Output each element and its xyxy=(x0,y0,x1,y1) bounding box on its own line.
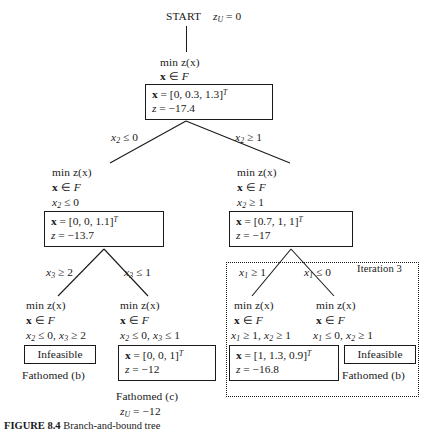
leaf2-objective: min z(x) xyxy=(120,299,160,311)
leaf4-result-box: Infeasible xyxy=(344,345,416,364)
leaf3-objective: min z(x) xyxy=(234,299,274,311)
leaf2-solution-box: x = [0, 0, 1]T z = −12 xyxy=(118,345,216,381)
leaf1-objective: min z(x) xyxy=(26,299,66,311)
leaf1-result-box: Infeasible xyxy=(24,345,96,364)
leaf2-membership: x ∈ F xyxy=(120,314,149,326)
leaf4-result: Infeasible xyxy=(358,347,403,361)
leaf1-membership: x ∈ F xyxy=(26,314,55,326)
leaf3-solution-z: z = −16.8 xyxy=(236,362,332,376)
branch-label-x1-le0: x1 ≤ 0 xyxy=(304,266,331,281)
leaf3-solution-box: x = [1, 1.3, 0.9]T z = −16.8 xyxy=(229,345,339,381)
leaf3-membership: x ∈ F xyxy=(234,314,263,326)
leaf4-objective: min z(x) xyxy=(316,299,356,311)
leaf2-constraints: x2 ≤ 0, x3 ≤ 1 xyxy=(120,329,180,344)
leaf3-solution-x: x = [1, 1.3, 0.9]T xyxy=(236,348,332,362)
branch-label-x3-ge2: x3 ≥ 2 xyxy=(46,266,73,281)
figure-caption: FIGURE 8.4 Branch-and-bound tree xyxy=(4,420,160,432)
leaf4-fathomed: Fathomed (b) xyxy=(342,369,405,381)
leaf1-result: Infeasible xyxy=(38,347,83,361)
leaf3-constraints: x1 ≥ 1, x2 ≥ 1 xyxy=(231,329,291,344)
leaf1-fathomed: Fathomed (b) xyxy=(22,369,85,381)
leaf2-solution-x: x = [0, 0, 1]T xyxy=(125,348,209,362)
leaf2-fathomed: Fathomed (c) xyxy=(116,390,178,402)
branch-label-x1-ge1: x1 ≥ 1 xyxy=(239,266,266,281)
leaf2-upper-bound: zU = −12 xyxy=(120,405,161,420)
branch-and-bound-tree-figure: START zU = 0 min z(x) x ∈ F x = [0, 0.3,… xyxy=(0,0,423,432)
leaf4-membership: x ∈ F xyxy=(316,314,345,326)
branch-label-x3-le1: x3 ≤ 1 xyxy=(124,266,151,281)
leaf2-solution-z: z = −12 xyxy=(125,362,209,376)
leaf4-constraints: x1 ≤ 0, x2 ≥ 1 xyxy=(313,329,373,344)
leaf1-constraints: x2 ≤ 0, x3 ≥ 2 xyxy=(26,329,86,344)
